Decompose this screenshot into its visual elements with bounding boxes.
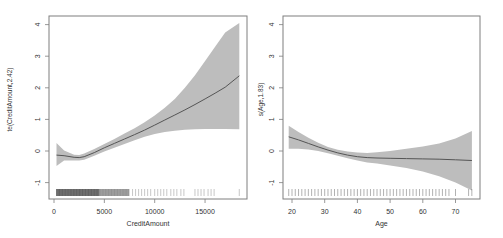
y-tick-label: 4 bbox=[34, 23, 41, 27]
x-axis: 203040506070 bbox=[288, 199, 459, 215]
x-tick-label: 5000 bbox=[97, 208, 113, 215]
y-axis-label: s(Age,1.83) bbox=[257, 83, 265, 117]
y-axis-label: te(CreditAmount,2.42) bbox=[6, 68, 14, 132]
y-tick-label: 1 bbox=[268, 117, 275, 121]
y-tick-label: 0 bbox=[268, 149, 275, 153]
x-tick-label: 0 bbox=[52, 208, 56, 215]
y-tick-label: -1 bbox=[34, 179, 41, 185]
age-panel: 203040506070 -101234 Age s(Age,1.83) bbox=[257, 16, 480, 228]
y-tick-label: 2 bbox=[268, 86, 275, 90]
x-axis-label: CreditAmount bbox=[127, 220, 170, 227]
x-axis: 050001000015000 bbox=[52, 199, 215, 215]
x-tick-label: 20 bbox=[288, 208, 296, 215]
x-tick-label: 70 bbox=[452, 208, 460, 215]
x-tick-label: 30 bbox=[321, 208, 329, 215]
y-tick-label: 3 bbox=[34, 54, 41, 58]
y-tick-label: 1 bbox=[34, 117, 41, 121]
x-tick-label: 10000 bbox=[145, 208, 165, 215]
figure-canvas: 050001000015000 -101234 CreditAmount te(… bbox=[0, 0, 503, 238]
y-axis: -101234 bbox=[34, 23, 49, 186]
credit-amount-panel: 050001000015000 -101234 CreditAmount te(… bbox=[6, 16, 247, 227]
x-axis-label: Age bbox=[375, 220, 388, 228]
y-tick-label: 3 bbox=[268, 54, 275, 58]
rug-plot bbox=[289, 189, 472, 196]
x-tick-label: 60 bbox=[419, 208, 427, 215]
y-tick-label: -1 bbox=[268, 179, 275, 185]
x-tick-label: 15000 bbox=[195, 208, 215, 215]
rug-plot bbox=[57, 189, 240, 196]
y-tick-label: 4 bbox=[268, 23, 275, 27]
y-tick-label: 2 bbox=[34, 86, 41, 90]
y-axis: -101234 bbox=[268, 23, 283, 186]
confidence-band bbox=[57, 23, 240, 166]
x-tick-label: 50 bbox=[386, 208, 394, 215]
y-tick-label: 0 bbox=[34, 149, 41, 153]
x-tick-label: 40 bbox=[354, 208, 362, 215]
